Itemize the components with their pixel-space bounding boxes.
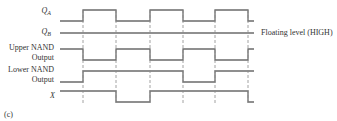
waveform-upper-nand-output <box>60 49 254 60</box>
timing-diagram <box>0 0 337 121</box>
waveform-q-a <box>60 10 254 21</box>
waveform-lower-nand-output <box>60 71 254 82</box>
waveform-x <box>60 91 254 102</box>
